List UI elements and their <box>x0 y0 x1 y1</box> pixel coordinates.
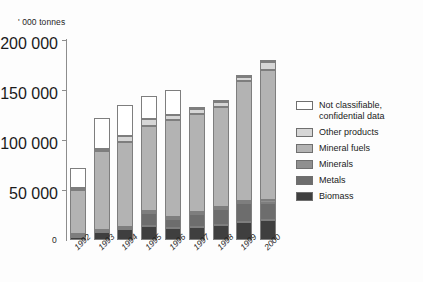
legend-swatch <box>296 176 313 185</box>
legend-item[interactable]: Not classifiable, confidential data <box>296 100 420 121</box>
bar-stack[interactable] <box>117 40 133 240</box>
bar-segment[interactable] <box>260 200 276 203</box>
bar-segment[interactable] <box>70 168 86 188</box>
bar-segment[interactable] <box>236 201 252 203</box>
legend-item[interactable]: Other products <box>296 127 420 138</box>
legend-swatch <box>296 160 313 169</box>
bar-segment[interactable] <box>236 77 252 81</box>
bar-segment[interactable] <box>165 219 181 228</box>
bar-segment[interactable] <box>236 81 252 201</box>
bar-segment[interactable] <box>213 207 229 209</box>
bar-segment[interactable] <box>213 107 229 207</box>
bar-segment[interactable] <box>141 126 157 211</box>
legend-item[interactable]: Metals <box>296 175 420 186</box>
y-tick-label: 50 000 <box>0 185 58 203</box>
bar-segment[interactable] <box>117 142 133 227</box>
bar-segment[interactable] <box>189 107 205 109</box>
y-axis-zero-label: 0 <box>52 235 57 245</box>
bar-stack[interactable] <box>236 40 252 240</box>
bar-segment[interactable] <box>94 149 110 151</box>
bar-segment[interactable] <box>117 105 133 136</box>
legend-item[interactable]: Mineral fuels <box>296 143 420 154</box>
bar-segment[interactable] <box>141 96 157 119</box>
bar-segment[interactable] <box>94 151 110 230</box>
legend-label: Minerals <box>319 159 353 170</box>
bar-segment[interactable] <box>189 212 205 214</box>
bar-segment[interactable] <box>260 203 276 220</box>
bar-segment[interactable] <box>141 119 157 126</box>
bar-segment[interactable] <box>189 109 205 114</box>
bar-stack[interactable] <box>260 40 276 240</box>
bar-segment[interactable] <box>213 100 229 102</box>
bar-stack[interactable] <box>94 40 110 240</box>
bar-segment[interactable] <box>165 120 181 217</box>
bar-stack[interactable] <box>165 40 181 240</box>
legend-item[interactable]: Minerals <box>296 159 420 170</box>
y-tick-label: 100 000 <box>0 135 58 153</box>
bar-segment[interactable] <box>213 209 229 225</box>
bar-segment[interactable] <box>165 217 181 219</box>
bar-segment[interactable] <box>213 102 229 107</box>
bar-segment[interactable] <box>70 190 86 234</box>
bar-segment[interactable] <box>165 115 181 120</box>
legend-item[interactable]: Biomass <box>296 191 420 202</box>
legend-label: Other products <box>319 127 379 138</box>
bar-segment[interactable] <box>141 213 157 226</box>
legend-swatch <box>296 101 313 110</box>
bar-segment[interactable] <box>70 188 86 190</box>
bar-segment[interactable] <box>141 211 157 213</box>
bar-stack[interactable] <box>213 40 229 240</box>
bar-segment[interactable] <box>189 114 205 212</box>
bar-segment[interactable] <box>117 136 133 142</box>
bar-segment[interactable] <box>236 75 252 77</box>
chart-legend: Not classifiable, confidential dataOther… <box>296 100 420 207</box>
bar-stack[interactable] <box>189 40 205 240</box>
bar-stack[interactable] <box>141 40 157 240</box>
plot-area <box>66 40 280 240</box>
bar-segment[interactable] <box>189 214 205 227</box>
bar-stack[interactable] <box>70 40 86 240</box>
chart-figure: ' 000 tonnes 50 000100 000150 000200 000… <box>0 0 423 282</box>
bar-segment[interactable] <box>260 60 276 62</box>
bar-segment[interactable] <box>94 118 110 149</box>
y-tick-label: 150 000 <box>0 85 58 103</box>
legend-swatch <box>296 192 313 201</box>
legend-label: Not classifiable, confidential data <box>319 100 385 121</box>
legend-swatch <box>296 144 313 153</box>
bar-segment[interactable] <box>236 203 252 222</box>
bar-segment[interactable] <box>260 70 276 200</box>
legend-label: Mineral fuels <box>319 143 370 154</box>
y-tick-label: 200 000 <box>0 35 58 53</box>
legend-label: Biomass <box>319 191 354 202</box>
legend-label: Metals <box>319 175 346 186</box>
bar-segment[interactable] <box>165 90 181 115</box>
bar-segment[interactable] <box>260 62 276 70</box>
legend-swatch <box>296 128 313 137</box>
